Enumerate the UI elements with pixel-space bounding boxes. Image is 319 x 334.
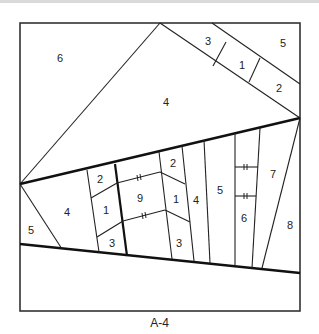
piece-label: 5	[217, 184, 223, 196]
unit-boundary	[20, 118, 300, 184]
piece-label: 2	[170, 157, 176, 169]
piece-label: 2	[276, 82, 282, 94]
piece-label: 8	[287, 219, 293, 231]
piece-label: 9	[137, 192, 143, 204]
piece-label: 1	[103, 204, 109, 216]
piece-label: 7	[270, 168, 276, 180]
block-caption: A-4	[0, 316, 319, 330]
seam-line	[252, 128, 260, 268]
piece-label: 6	[57, 52, 63, 64]
piece-label: 5	[28, 224, 34, 236]
seam-line	[20, 23, 160, 184]
seam-line	[204, 140, 210, 263]
seam-line	[123, 210, 165, 221]
seam-line	[213, 42, 226, 66]
seam-line	[97, 221, 123, 237]
piece-label: 4	[163, 96, 169, 108]
piece-label: 3	[205, 35, 211, 47]
seam-line	[91, 183, 117, 198]
unit-boundary	[115, 164, 127, 256]
match-marks	[137, 164, 247, 219]
piece-label: 2	[97, 173, 103, 185]
paper-piecing-pattern: 6 3 1 2 5 4 5 4 2 1 3 9 2 1 3 4 5 6 7 8	[0, 0, 319, 334]
seam-line	[249, 58, 260, 82]
seam-line	[160, 23, 300, 118]
seam-line	[20, 184, 62, 249]
piece-label: 5	[280, 37, 286, 49]
piece-label: 4	[193, 194, 199, 206]
piece-label: 1	[173, 193, 179, 205]
seam-line	[262, 118, 300, 268]
piece-label: 4	[64, 206, 70, 218]
seam-line	[117, 172, 160, 183]
piece-label: 6	[241, 212, 247, 224]
piece-label: 3	[109, 237, 115, 249]
seam-line	[165, 210, 190, 222]
seam-line	[160, 172, 185, 184]
piece-label: 3	[176, 237, 182, 249]
seam-line	[212, 23, 300, 84]
piece-label: 1	[239, 59, 245, 71]
